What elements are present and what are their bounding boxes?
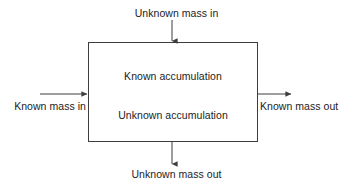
diagram-vector-layer bbox=[0, 0, 353, 188]
label-known-accumulation: Known accumulation bbox=[88, 70, 258, 82]
mass-balance-diagram: Unknown mass in Known mass in Known mass… bbox=[0, 0, 353, 188]
label-unknown-accumulation: Unknown accumulation bbox=[88, 109, 258, 121]
control-volume-box bbox=[89, 43, 258, 142]
label-unknown-mass-out: Unknown mass out bbox=[0, 168, 353, 180]
label-unknown-mass-in: Unknown mass in bbox=[0, 7, 353, 19]
label-known-mass-in: Known mass in bbox=[0, 100, 86, 112]
label-known-mass-out: Known mass out bbox=[260, 100, 338, 112]
